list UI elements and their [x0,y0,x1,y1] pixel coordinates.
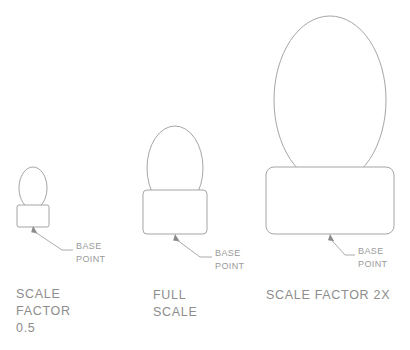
figure-full-scale: BASE POINT FULL SCALE [143,126,245,319]
leader-arrowhead-full [173,234,180,242]
ellipse-shape-small [19,167,47,209]
leader-line-double [332,240,356,255]
figure-scale-half: BASE POINT SCALE FACTOR 0.5 [16,167,106,335]
base-rectangle-small [17,205,49,227]
ellipse-shape-double [274,16,386,184]
caption-double-line1: SCALE FACTOR 2X [266,288,390,302]
leader-line-full [177,240,212,257]
base-rectangle-full [143,190,207,234]
base-point-label-double-line1: BASE [358,246,384,256]
base-rectangle-double [266,167,394,234]
base-point-leader-double [328,234,355,255]
base-point-label-full-line2: POINT [215,261,245,271]
base-point-label-full-line1: BASE [215,248,241,258]
base-point-label-small-line1: BASE [76,241,102,251]
caption-small-line3: 0.5 [16,321,35,335]
caption-small-line1: SCALE [16,287,61,301]
leader-line-small [35,232,73,250]
caption-full-line1: FULL [153,288,186,302]
caption-small-line2: FACTOR [16,304,71,318]
base-point-label-small-line2: POINT [76,254,106,264]
base-point-leader-full [173,234,212,257]
caption-full-line2: SCALE [153,305,198,319]
figure-scale-double: BASE POINT SCALE FACTOR 2X [266,16,394,302]
base-point-leader-small [31,226,73,250]
leader-arrowhead-double [328,234,334,241]
scale-factor-diagram: BASE POINT SCALE FACTOR 0.5 BASE POINT F… [0,0,410,350]
base-point-label-double-line2: POINT [358,259,388,269]
